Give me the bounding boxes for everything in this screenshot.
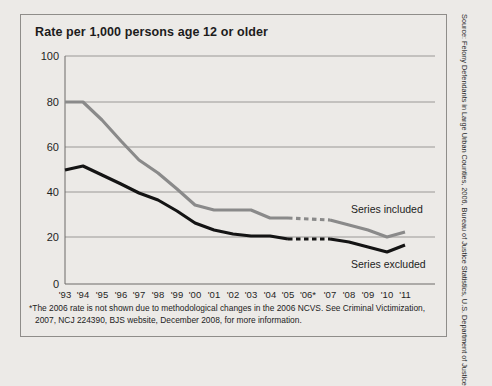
x-axis-tick-labels: '93 '94 '95 '96 '97 '98 '99 '00 '01 '02 …: [59, 289, 411, 300]
series-line-excluded-right: [330, 239, 405, 252]
y-axis-tick-labels: 100 80 60 40 20 0: [41, 50, 59, 290]
x-tick-2005: '05: [282, 289, 294, 300]
x-tick-2011: '11: [399, 289, 411, 300]
x-tick-1993: '93: [59, 289, 71, 300]
x-tick-1995: '95: [96, 289, 108, 300]
series-line-included-right: [330, 220, 405, 237]
y-tick-20: 20: [47, 231, 59, 243]
x-tick-2000: '00: [189, 289, 201, 300]
source-note-text: Source: Felony Defendants in Large Urban…: [460, 14, 469, 386]
x-tick-2008: '08: [343, 289, 355, 300]
x-tick-2002: '02: [227, 289, 239, 300]
footnote-line-1: *The 2006 rate is not shown due to metho…: [29, 303, 441, 315]
chart-figure: Rate per 1,000 persons age 12 or older 1…: [20, 14, 447, 337]
x-tick-2006: '06*: [300, 289, 316, 300]
series-dash-included-gap: [288, 218, 330, 220]
x-tick-1994: '94: [77, 289, 89, 300]
y-tick-60: 60: [47, 141, 59, 153]
x-tick-2009: '09: [362, 289, 374, 300]
series-line-excluded-left: [65, 166, 288, 239]
footnote-line-2: 2007, NCJ 224390, BJS website, December …: [29, 315, 441, 327]
x-tick-2003: '03: [245, 289, 257, 300]
line-chart-plot: 100 80 60 40 20 0 '93 '94 '95 '96 '97 '9…: [21, 15, 448, 338]
x-tick-1996: '96: [115, 289, 127, 300]
x-tick-1997: '97: [133, 289, 145, 300]
series-line-included-left: [65, 102, 288, 218]
y-tick-100: 100: [41, 50, 59, 62]
x-tick-1998: '98: [152, 289, 164, 300]
y-tick-40: 40: [47, 186, 59, 198]
y-tick-80: 80: [47, 96, 59, 108]
series-label-included: Series included: [351, 203, 423, 215]
x-tick-2007: '07: [324, 289, 336, 300]
x-tick-1999: '99: [171, 289, 183, 300]
x-tick-2001: '01: [208, 289, 220, 300]
x-tick-2010: '10: [381, 289, 393, 300]
x-tick-2004: '04: [264, 289, 276, 300]
source-note: Source: Felony Defendants in Large Urban…: [456, 14, 472, 337]
footnote: *The 2006 rate is not shown due to metho…: [29, 303, 441, 326]
series-label-excluded: Series excluded: [351, 258, 426, 270]
